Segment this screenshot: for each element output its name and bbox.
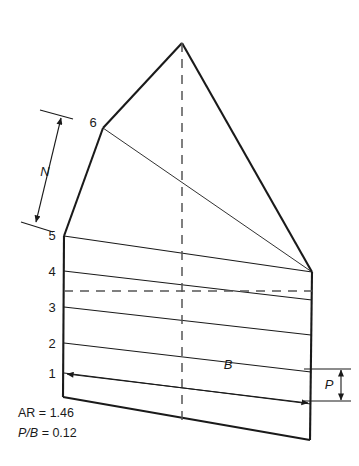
station-label-4: 4 [48,264,55,279]
station-label-3: 3 [48,300,55,315]
note-p-over-b-value: 0.12 [52,426,76,440]
edge-bottom-trailing [63,397,310,440]
note-aspect-ratio-equals: = [35,406,49,420]
station-row-line-2 [64,343,311,372]
station-label-5: 5 [48,228,55,243]
edge-left-vertical [63,236,64,397]
note-aspect-ratio: AR = 1.46 [18,406,74,420]
station-row-line-5 [64,236,312,272]
edge-apex-to-point6 [103,43,182,128]
edge-apex-to-right-vertex [182,43,312,272]
note-aspect-ratio-label: AR [18,406,35,420]
station-row-line-3 [64,307,311,335]
dimension-N-extension-top [40,110,73,119]
dimension-N-label: N [40,164,50,179]
edge-point6-to-point5 [64,128,103,236]
station-label-1: 1 [48,366,55,381]
internal-diagonal-lines [103,128,312,272]
dimension-B-line [67,374,308,403]
diagonal-point6-to-right-vertex [103,128,312,272]
dimension-B-label: B [224,357,233,372]
note-p-over-b-label: P/B [18,426,38,440]
station-label-6: 6 [89,115,96,130]
station-row-line-4 [64,271,312,300]
notes-group: AR = 1.46 P/B = 0.12 [18,406,77,440]
planform-svg: N B P 6 5 4 3 2 1 AR = 1.46 P/B = 0.12 [0,0,359,466]
note-p-over-b-equals: = [38,426,52,440]
figure-canvas: N B P 6 5 4 3 2 1 AR = 1.46 P/B = 0.12 [0,0,359,466]
edge-right-vertical [310,272,312,440]
note-aspect-ratio-value: 1.46 [50,406,74,420]
station-label-2: 2 [48,336,55,351]
station-row-lines [64,236,312,404]
dimension-P-label: P [325,377,334,392]
dimension-B-group [67,374,308,403]
note-p-over-b: P/B = 0.12 [18,426,77,440]
